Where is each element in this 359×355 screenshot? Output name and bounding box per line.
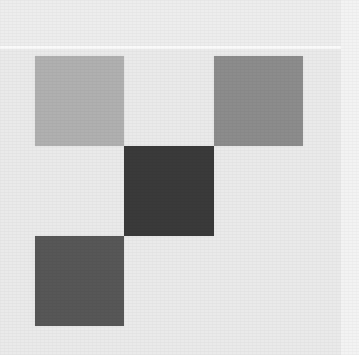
right-light-band <box>341 0 359 355</box>
top-seam-line <box>0 46 359 49</box>
top-right-square <box>214 56 303 146</box>
image-canvas <box>0 0 359 355</box>
center-square <box>124 146 214 236</box>
top-left-square <box>35 56 124 146</box>
bottom-left-square <box>35 236 124 326</box>
top-light-band <box>0 0 359 46</box>
